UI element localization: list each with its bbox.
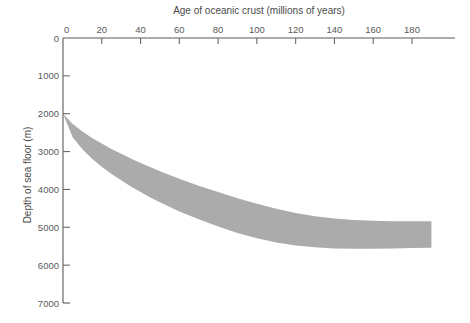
depth-envelope-band bbox=[63, 114, 431, 249]
x-tick-label: 40 bbox=[135, 24, 146, 35]
x-axis-title: Age of oceanic crust (millions of years) bbox=[173, 5, 345, 16]
x-tick-label: 100 bbox=[249, 24, 265, 35]
y-tick-label: 6000 bbox=[38, 260, 59, 271]
y-tick-label: 7000 bbox=[38, 298, 59, 309]
x-axis-ticks bbox=[102, 38, 412, 44]
x-tick-label: 20 bbox=[96, 24, 107, 35]
y-tick-label: 3000 bbox=[38, 146, 59, 157]
seafloor-depth-chart: 020406080100120140160180 010002000300040… bbox=[0, 0, 470, 323]
y-tick-label: 5000 bbox=[38, 222, 59, 233]
chart-canvas: 020406080100120140160180 010002000300040… bbox=[0, 0, 470, 323]
x-axis-tick-labels: 020406080100120140160180 bbox=[64, 24, 420, 35]
x-tick-label: 160 bbox=[365, 24, 381, 35]
y-tick-label: 0 bbox=[54, 33, 59, 44]
x-tick-label: 0 bbox=[64, 24, 69, 35]
y-axis-tick-labels: 01000200030004000500060007000 bbox=[38, 33, 59, 309]
x-tick-label: 80 bbox=[213, 24, 224, 35]
y-tick-label: 1000 bbox=[38, 70, 59, 81]
x-tick-label: 140 bbox=[327, 24, 343, 35]
x-tick-label: 120 bbox=[288, 24, 304, 35]
y-tick-label: 4000 bbox=[38, 184, 59, 195]
y-axis-title: Depth of sea floor (m) bbox=[22, 127, 33, 224]
x-tick-label: 60 bbox=[174, 24, 185, 35]
y-tick-label: 2000 bbox=[38, 108, 59, 119]
x-tick-label: 180 bbox=[404, 24, 420, 35]
y-axis-ticks bbox=[63, 76, 70, 265]
